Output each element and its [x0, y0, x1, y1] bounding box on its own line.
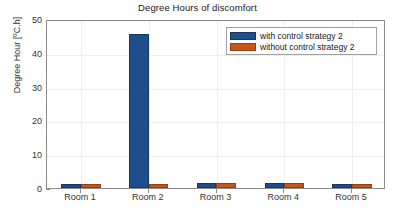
bar[interactable]	[284, 183, 304, 188]
x-axis-tick-label: Room 2	[132, 192, 164, 202]
bar[interactable]	[197, 183, 217, 188]
legend-item-label: without control strategy 2	[260, 42, 355, 52]
figure-canvas: Degree Hours of discomfort 01020304050 D…	[0, 0, 395, 213]
y-axis-tick-label: 30	[2, 83, 42, 93]
x-axis-tick-label: Room 1	[64, 192, 96, 202]
y-axis-tick-label: 10	[2, 150, 42, 160]
legend-item-label: with control strategy 2	[260, 31, 343, 41]
bar[interactable]	[129, 34, 149, 188]
y-axis-tick-mark	[46, 189, 50, 190]
bar-group	[61, 21, 100, 188]
chart-title: Degree Hours of discomfort	[0, 2, 395, 13]
bar[interactable]	[149, 184, 169, 188]
y-axis-tick-label: 0	[2, 184, 42, 194]
legend-swatch-icon	[230, 32, 256, 40]
legend-item-series-1[interactable]: with control strategy 2	[230, 30, 373, 41]
bar[interactable]	[332, 184, 352, 188]
bar[interactable]	[265, 183, 285, 188]
x-axis-tick-label: Room 3	[200, 192, 232, 202]
y-axis-tick-label: 40	[2, 49, 42, 59]
y-axis-tick-label: 50	[2, 15, 42, 25]
bar[interactable]	[352, 184, 372, 188]
bar[interactable]	[81, 184, 101, 188]
legend-item-series-2[interactable]: without control strategy 2	[230, 41, 373, 52]
bar[interactable]	[61, 184, 81, 188]
bar[interactable]	[216, 183, 236, 188]
chart-legend: with control strategy 2 without control …	[226, 27, 377, 55]
x-axis-tick-labels: Room 1Room 2Room 3Room 4Room 5	[46, 192, 385, 210]
legend-swatch-icon	[230, 43, 256, 51]
y-axis-tick-label: 20	[2, 116, 42, 126]
y-axis-label: Degree Hour [ºC.h]	[12, 0, 22, 140]
x-axis-tick-label: Room 5	[335, 192, 367, 202]
x-axis-tick-label: Room 4	[268, 192, 300, 202]
bar-group	[129, 21, 168, 188]
